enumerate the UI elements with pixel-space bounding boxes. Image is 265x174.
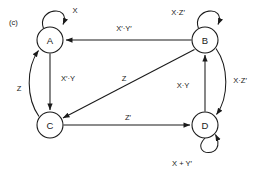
- transition-label-a-to-c: X′·Y: [61, 74, 75, 83]
- transition-label-d-to-d: X + Y′: [172, 159, 193, 168]
- state-node-b[interactable]: B: [192, 27, 218, 53]
- transition-b-to-c: [63, 50, 195, 119]
- transition-label-c-to-a: Z: [17, 84, 22, 93]
- transition-a-to-a: [42, 11, 64, 29]
- state-label-d: D: [202, 120, 209, 131]
- state-node-c[interactable]: C: [37, 112, 63, 138]
- state-label-b: B: [202, 35, 208, 46]
- transition-label-b-to-a: X′·Y′: [116, 24, 132, 33]
- transition-label-b-to-c: Z: [122, 74, 127, 83]
- state-diagram-canvas: (c) X X·Z′ X + Y′ X′·Y′ X′·Y Z Z Z′ X·Y …: [0, 0, 265, 174]
- state-node-a[interactable]: A: [37, 27, 63, 53]
- transition-c-to-a: [29, 51, 39, 117]
- transition-b-to-b: [197, 11, 219, 29]
- state-node-d[interactable]: D: [192, 112, 218, 138]
- transition-label-b-to-b: X·Z′: [171, 8, 185, 17]
- state-label-a: A: [47, 35, 54, 46]
- state-label-c: C: [47, 120, 54, 131]
- state-diagram-figure: (c) X X·Z′ X + Y′ X′·Y′ X′·Y Z Z Z′ X·Y …: [0, 0, 265, 174]
- transition-label-b-to-d: X·Z′: [233, 76, 247, 85]
- transition-label-c-to-d: Z′: [125, 113, 132, 122]
- transition-label-a-to-a: X: [72, 6, 77, 15]
- figure-caption: (c): [9, 18, 18, 27]
- transition-b-to-d: [216, 49, 226, 115]
- transition-label-d-to-b: X·Y: [177, 81, 190, 90]
